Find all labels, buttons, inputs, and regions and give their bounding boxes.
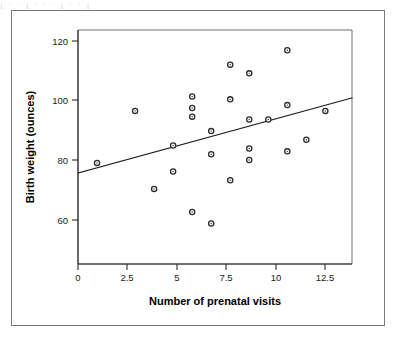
figure-root: ¡ · · ¡ · · · ¡ · · ¡ 120 100 80 60 (0, 0, 398, 339)
data-point-center (96, 162, 97, 163)
x-tick-label-10: 10 (271, 272, 282, 283)
y-tick-label-80: 80 (57, 155, 68, 166)
data-point-center (287, 151, 288, 152)
data-point-center (191, 211, 192, 212)
x-tick-label-5: 5 (174, 272, 179, 283)
y-tick-label-60: 60 (57, 215, 68, 226)
data-point-center (230, 180, 231, 181)
data-point-center (249, 148, 250, 149)
data-point-center (249, 119, 250, 120)
data-point-center (325, 110, 326, 111)
data-point-center (172, 145, 173, 146)
data-point-center (210, 130, 211, 131)
data-point-center (230, 99, 231, 100)
y-axis: 120 100 80 60 (52, 30, 78, 264)
x-tick-label-12.5: 12.5 (316, 272, 335, 283)
x-axis: 0 2.5 5 7.5 10 12.5 (75, 264, 352, 283)
data-point-center (191, 107, 192, 108)
data-point-center (191, 96, 192, 97)
data-point-center (210, 223, 211, 224)
y-tick-label-120: 120 (52, 36, 68, 47)
data-point-center (249, 73, 250, 74)
plot-frame (78, 30, 352, 264)
data-point-center (230, 64, 231, 65)
data-point-center (191, 116, 192, 117)
data-point-center (172, 171, 173, 172)
data-point-center (268, 119, 269, 120)
y-axis-title: Birth weight (ounces) (24, 90, 36, 203)
regression-line (78, 98, 352, 173)
data-point-center (287, 50, 288, 51)
data-point-center (134, 110, 135, 111)
data-point-center (153, 188, 154, 189)
data-point-center (287, 104, 288, 105)
data-point-center (210, 154, 211, 155)
x-tick-label-0: 0 (75, 272, 80, 283)
x-axis-title: Number of prenatal visits (149, 295, 281, 307)
y-axis-ticks (72, 41, 78, 220)
scatter-plot: 120 100 80 60 0 2.5 5 7.5 10 12.5 (0, 0, 398, 339)
data-point-center (249, 159, 250, 160)
x-axis-ticks (78, 264, 325, 270)
y-tick-label-100: 100 (52, 95, 68, 106)
data-point-center (306, 139, 307, 140)
x-tick-label-2.5: 2.5 (120, 272, 133, 283)
x-tick-label-7.5: 7.5 (219, 272, 232, 283)
